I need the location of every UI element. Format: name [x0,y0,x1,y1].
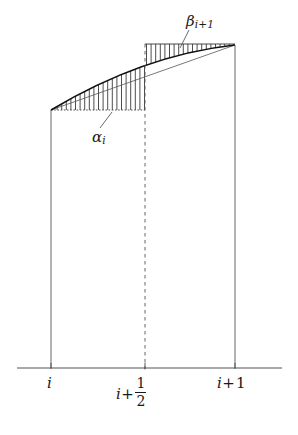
fraction-denominator: 2 [135,393,146,409]
figure-canvas: αi βi+1 i i+12 i+1 [0,0,298,435]
beta-subscript: i+1 [195,18,214,30]
alpha-symbol: α [92,128,102,146]
beta-symbol: β [186,12,195,30]
diagram-svg [0,0,298,435]
axis-label-i-text: i [47,374,52,392]
fraction-numerator: 1 [135,376,146,393]
beta-region-label: βi+1 [186,14,214,30]
axis-label-i-one-value: 1 [235,374,246,392]
alpha-leader-line [100,112,112,128]
beta-hatch-lines [147,44,234,69]
alpha-region-label: αi [92,130,106,146]
alpha-subscript: i [102,134,106,146]
fraction-one-half: 12 [135,376,146,408]
alpha-hatch-lines [53,62,145,110]
axis-label-i-plus-one: i+1 [217,376,246,391]
axis-label-i-half-operator: + [121,385,135,403]
straight-chord-line [51,45,235,110]
axis-label-i: i [47,376,52,391]
alpha-hatch-group [53,62,145,110]
axis-label-i-plus-half: i+12 [116,376,146,408]
beta-hatch-group [147,44,234,69]
axis-label-i-one-operator: + [222,374,236,392]
